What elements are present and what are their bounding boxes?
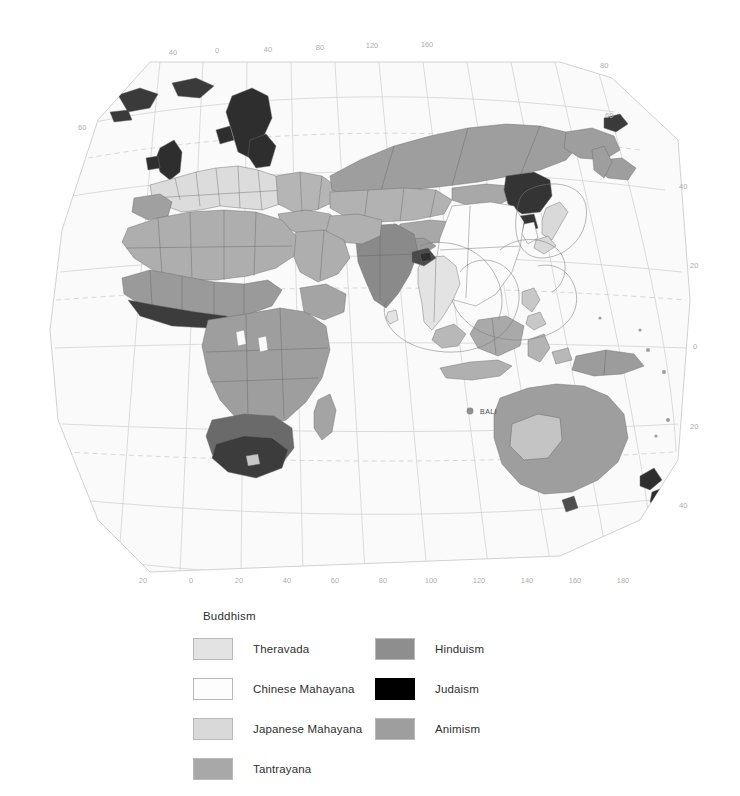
legend-swatch-theravada: [193, 638, 233, 660]
lon-label-bottom-0: 20: [139, 576, 147, 585]
map-legend: Buddhism Theravada Chinese Mahayana Japa…: [0, 598, 740, 796]
legend-label-animism: Animism: [435, 723, 480, 735]
lat-label-right-4: 0: [693, 342, 697, 351]
annotation-bali: BALI: [467, 408, 498, 415]
lon-label-bottom-4: 60: [331, 576, 339, 585]
lon-label-top-2: 40: [264, 45, 272, 54]
legend-item-hinduism: Hinduism: [375, 629, 484, 669]
legend-swatch-chinese-mahayana: [193, 678, 233, 700]
bali-marker: [467, 408, 474, 415]
lat-label-right-0: 80: [600, 61, 608, 70]
legend-item-theravada: Theravada: [193, 629, 362, 669]
legend-label-tantrayana: Tantrayana: [253, 763, 311, 775]
legend-label-judaism: Judaism: [435, 683, 479, 695]
legend-swatch-japanese-mahayana: [193, 718, 233, 740]
lon-label-top-1: 0: [215, 46, 219, 55]
legend-item-chinese-mahayana: Chinese Mahayana: [193, 669, 362, 709]
legend-item-tantrayana: Tantrayana: [193, 749, 362, 789]
legend-label-theravada: Theravada: [253, 643, 309, 655]
lon-label-bottom-9: 160: [569, 576, 582, 585]
map-canvas: BALI 40 0 40 80 120 160 20 0 20 40 60 80…: [0, 0, 740, 600]
lon-label-top-4: 120: [366, 41, 379, 50]
lon-label-bottom-1: 0: [189, 576, 193, 585]
legend-swatch-animism: [375, 718, 415, 740]
legend-item-animism: Animism: [375, 709, 484, 749]
legend-item-judaism: Judaism: [375, 669, 484, 709]
lat-label-right-1: 60: [605, 111, 613, 120]
legend-swatch-tantrayana: [193, 758, 233, 780]
lat-label-left-0: 60: [78, 123, 86, 132]
legend-swatch-judaism: [375, 678, 415, 700]
legend-item-japanese-mahayana: Japanese Mahayana: [193, 709, 362, 749]
lon-label-top-0: 40: [169, 48, 177, 57]
lon-label-bottom-8: 140: [521, 576, 534, 585]
lat-label-right-2: 40: [679, 182, 687, 191]
lon-label-top-3: 80: [316, 43, 324, 52]
bali-label: BALI: [480, 408, 497, 415]
lon-label-bottom-10: 180: [617, 576, 630, 585]
lat-label-right-3: 20: [690, 261, 698, 270]
legend-label-japanese-mahayana: Japanese Mahayana: [253, 723, 362, 735]
axis-labels-left: 60: [78, 123, 86, 132]
legend-label-chinese-mahayana: Chinese Mahayana: [253, 683, 355, 695]
axis-labels-bottom: 20 0 20 40 60 80 100 120 140 160 180: [139, 576, 629, 585]
lat-label-right-5: 20: [690, 422, 698, 431]
lat-label-right-6: 40: [679, 501, 687, 510]
legend-label-hinduism: Hinduism: [435, 643, 484, 655]
lon-label-bottom-6: 100: [425, 576, 438, 585]
legend-column-right: Hinduism Judaism Animism: [375, 629, 484, 749]
legend-column-left: Theravada Chinese Mahayana Japanese Maha…: [193, 629, 362, 789]
legend-title: Buddhism: [203, 610, 256, 622]
lon-label-bottom-7: 120: [473, 576, 486, 585]
legend-swatch-hinduism: [375, 638, 415, 660]
world-map-figure: BALI 40 0 40 80 120 160 20 0 20 40 60 80…: [0, 0, 740, 600]
lon-label-bottom-2: 20: [235, 576, 243, 585]
axis-labels-top: 40 0 40 80 120 160: [169, 40, 433, 57]
lon-label-bottom-3: 40: [283, 576, 291, 585]
lon-label-bottom-5: 80: [379, 576, 387, 585]
lon-label-top-5: 160: [421, 40, 434, 49]
